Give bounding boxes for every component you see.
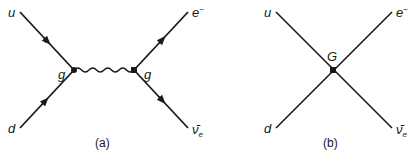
- vertex-dot-center: [330, 67, 336, 73]
- caption-a: (a): [95, 136, 110, 150]
- caption-b: (b): [323, 136, 338, 150]
- label-d-a: d: [8, 121, 16, 136]
- label-coupling-g-left: g: [58, 67, 66, 82]
- label-electron-a: e−: [192, 5, 204, 20]
- label-coupling-g-right: g: [144, 67, 152, 82]
- label-u-a: u: [8, 5, 15, 20]
- diagram-a: u d g g e− ν̄e (a): [8, 5, 204, 150]
- w-boson-propagator: [74, 68, 134, 72]
- label-u-b: u: [264, 5, 271, 20]
- d-quark-line-a: [20, 70, 74, 128]
- vertex-dot-right: [131, 67, 137, 73]
- label-antineutrino-b: ν̄e: [396, 122, 408, 139]
- label-coupling-G: G: [327, 49, 337, 64]
- electron-line-a: [134, 12, 188, 70]
- label-d-b: d: [264, 121, 272, 136]
- label-antineutrino-a: ν̄e: [192, 122, 204, 139]
- feynman-diagrams-figure: u d g g e− ν̄e (a) u d G e− ν̄e (b): [0, 0, 413, 162]
- vertex-dot-left: [71, 67, 77, 73]
- diagram-b: u d G e− ν̄e (b): [264, 5, 408, 150]
- antineutrino-line-a: [134, 70, 188, 128]
- u-quark-line-a: [20, 12, 74, 70]
- label-electron-b: e−: [396, 5, 408, 20]
